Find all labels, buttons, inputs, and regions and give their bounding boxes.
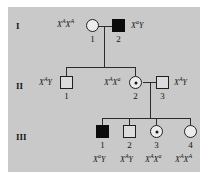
individual-iii2-number: 2: [123, 140, 136, 150]
individual-i1-number: 1: [86, 34, 99, 44]
genotype-iii4: XAXA: [175, 155, 192, 164]
individual-ii3-symbol[interactable]: [156, 76, 169, 89]
sibship-line-gen3: [102, 118, 190, 119]
generation-label-i: I: [16, 21, 20, 31]
genotype-i2-mid: Y: [139, 21, 143, 30]
sibship-drop-ii1: [66, 67, 67, 76]
individual-iii1-number: 1: [96, 140, 109, 150]
carrier-dot-icon: [155, 130, 158, 133]
individual-i1-symbol[interactable]: [86, 19, 99, 32]
genotype-iii3: XAXa: [145, 155, 161, 164]
genotype-iii1-mid: Y: [101, 155, 105, 164]
genotype-i1: XAXA: [57, 20, 74, 29]
individual-ii1-number: 1: [60, 91, 73, 101]
genotype-iii3-sup2: a: [158, 153, 161, 159]
genotype-iii1: XaY: [93, 155, 105, 164]
genotype-ii3: XAY: [174, 78, 187, 87]
individual-i2-symbol[interactable]: [112, 19, 125, 32]
descent-line-gen1: [104, 26, 105, 67]
sibship-drop-iii2: [129, 118, 130, 125]
individual-iii4-symbol[interactable]: [184, 125, 197, 138]
sibship-drop-ii2: [135, 67, 136, 76]
genotype-i1-sup2: A: [70, 18, 74, 24]
descent-line-gen2: [150, 82, 151, 118]
individual-i2-number: 2: [112, 34, 125, 44]
individual-ii2-symbol[interactable]: [129, 76, 142, 89]
sibship-drop-iii4: [190, 118, 191, 125]
generation-label-ii: II: [16, 81, 23, 91]
genotype-iii4-sup2: A: [188, 153, 192, 159]
individual-iii2-symbol[interactable]: [123, 125, 136, 138]
carrier-dot-icon: [134, 81, 137, 84]
individual-iii3-symbol[interactable]: [150, 125, 163, 138]
pedigree-figure: I II III XAXA 1 2: [0, 0, 209, 179]
genotype-ii3-mid: Y: [183, 78, 187, 87]
individual-iii4-number: 4: [184, 140, 197, 150]
sibship-line-gen2: [66, 67, 135, 68]
pedigree-panel: I II III XAXA 1 2: [8, 7, 200, 172]
individual-ii3-number: 3: [156, 91, 169, 101]
individual-iii3-number: 3: [150, 140, 163, 150]
genotype-iii2-mid: Y: [129, 155, 133, 164]
individual-iii1-symbol[interactable]: [96, 125, 109, 138]
sibship-drop-iii3: [156, 118, 157, 125]
genotype-ii1: XAY: [39, 78, 52, 87]
genotype-i2: XaY: [131, 21, 143, 30]
generation-label-iii: III: [16, 132, 27, 142]
sibship-drop-iii1: [102, 118, 103, 125]
individual-ii2-number: 2: [129, 91, 142, 101]
genotype-ii2-sup2: a: [117, 76, 120, 82]
genotype-iii2: XAY: [120, 155, 133, 164]
individual-ii1-symbol[interactable]: [60, 76, 73, 89]
genotype-ii2: XAXa: [104, 78, 120, 87]
genotype-ii1-mid: Y: [48, 78, 52, 87]
